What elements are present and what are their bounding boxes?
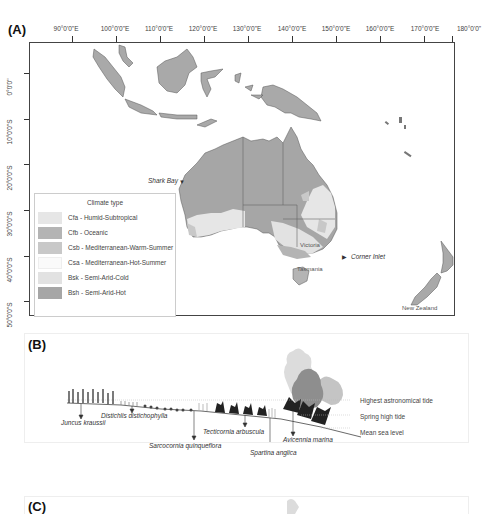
legend-item-csb: Csb - Mediterranean-Warm-Summer <box>35 240 175 255</box>
legend-title: Climate type <box>35 199 175 206</box>
y-tick-label: 10°0'0"S <box>6 120 13 145</box>
panel-c-figure-fragment <box>25 497 468 514</box>
x-tick-label: 170°0'0"E <box>411 25 440 32</box>
legend-swatch <box>38 257 62 269</box>
species-label: Sarcocornia quinqueflora <box>149 442 221 449</box>
legend-swatch <box>38 287 62 299</box>
panel-b: (B) <box>24 333 469 443</box>
x-tick-label: 100°0'0"E <box>101 25 130 32</box>
x-tick-label: 180°0'0" <box>457 25 481 32</box>
victoria-label: Victoria <box>300 242 320 248</box>
species-label: Avicennia marina <box>283 436 333 443</box>
x-tick-label: 110°0'0"E <box>145 25 173 32</box>
species-label: Distichlis distichophylla <box>101 412 167 419</box>
legend-item-bsk: Bsk - Semi-Arid-Cold <box>35 270 175 285</box>
legend-swatch <box>38 242 62 254</box>
legend-label: Csa - Mediterranean-Hot-Summer <box>68 259 166 266</box>
legend-label: Cfa - Humid-Subtropical <box>68 214 137 221</box>
corner-inlet-arrow-icon: ▶ <box>342 253 347 260</box>
species-label: Spartina anglica <box>250 449 297 456</box>
tide-label-hat: Highest astronomical tide <box>360 397 433 404</box>
tide-label-msl: Mean sea level <box>360 429 404 436</box>
tasmania-label: Tasmania <box>297 266 323 272</box>
y-tick-label: 30°0'0"S <box>6 212 13 237</box>
legend-label: Bsk - Semi-Arid-Cold <box>68 274 129 281</box>
climate-legend: Climate type Cfa - Humid-Subtropical Cfb… <box>34 193 176 317</box>
y-tick-label: 0°0'0" <box>6 79 13 96</box>
legend-label: Bsh - Semi-Arid-Hot <box>68 289 126 296</box>
y-tick-label: 50°0'0"S <box>6 303 13 328</box>
y-tick-label: 20°0'0"S <box>6 166 13 191</box>
y-tick-label: 40°0'0"S <box>6 258 13 283</box>
species-label: Tecticornia arbuscula <box>203 428 264 435</box>
corner-inlet-label: Corner Inlet <box>351 253 385 260</box>
x-tick-label: 160°0'0"E <box>366 25 395 32</box>
x-tick-label: 120°0'0"E <box>189 25 218 32</box>
legend-swatch <box>38 272 62 284</box>
panel-c: (C) <box>24 496 469 514</box>
panel-a-label: (A) <box>8 22 26 37</box>
legend-item-cfb: Cfb - Oceanic <box>35 225 175 240</box>
species-label: Juncus kraussii <box>61 419 105 426</box>
legend-label: Cfb - Oceanic <box>68 229 108 236</box>
x-tick-label: 90°0'0"E <box>54 25 79 32</box>
legend-label: Csb - Mediterranean-Warm-Summer <box>68 244 173 251</box>
new-zealand-label: New Zealand <box>402 305 437 311</box>
x-tick-label: 150°0'0"E <box>322 25 351 32</box>
shark-bay-label: Shark Bay <box>148 177 178 184</box>
legend-swatch <box>38 212 62 224</box>
x-tick-label: 130°0'0"E <box>233 25 262 32</box>
legend-item-cfa: Cfa - Humid-Subtropical <box>35 210 175 225</box>
legend-item-bsh: Bsh - Semi-Arid-Hot <box>35 285 175 300</box>
shark-bay-arrow-icon: ▼ <box>179 179 185 185</box>
x-tick-label: 140°0'0"E <box>278 25 307 32</box>
legend-swatch <box>38 227 62 239</box>
tide-label-spring-high: Spring high tide <box>360 413 405 420</box>
legend-item-csa: Csa - Mediterranean-Hot-Summer <box>35 255 175 270</box>
